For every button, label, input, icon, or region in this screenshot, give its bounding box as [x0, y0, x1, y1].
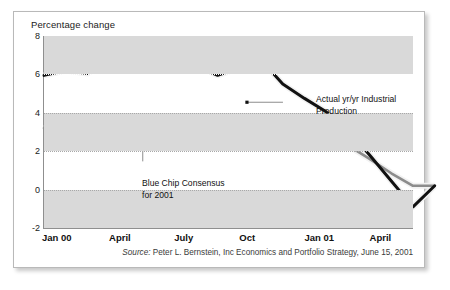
annotation-actual-production: Actual yr/yr Industrial Production	[316, 94, 396, 117]
annotation-blue-chip-consensus: Blue Chip Consensus for 2001	[142, 178, 225, 201]
x-tick-label-1: April	[109, 232, 131, 243]
y-tick-label-6: 6	[35, 69, 40, 79]
x-axis: Jan 00AprilJulyOctJan 01April	[44, 232, 413, 248]
y-axis: 86420-2	[14, 12, 44, 267]
gridline-6	[44, 74, 413, 75]
y-tick-label-8: 8	[35, 31, 40, 41]
annotation-actual-line1: Actual yr/yr Industrial	[316, 94, 396, 106]
gridline-0	[44, 190, 413, 191]
y-tick-label-0: 0	[35, 185, 40, 195]
y-tick-label-4: 4	[35, 108, 40, 118]
plot-band-0	[44, 36, 413, 74]
annotation-bluechip-line1: Blue Chip Consensus	[142, 178, 225, 190]
plot-area	[44, 36, 413, 228]
x-tick-label-3: Oct	[239, 232, 255, 243]
x-tick-label-2: July	[174, 232, 193, 243]
x-tick-label-5: April	[370, 232, 392, 243]
annotation-bluechip-line2: for 2001	[142, 190, 225, 202]
x-tick-label-0: Jan 00	[42, 232, 72, 243]
plot-band-2	[44, 190, 413, 228]
source-note: Source: Peter L. Bernstein, Inc Economic…	[14, 248, 413, 257]
y-tick-label--2: -2	[32, 223, 40, 233]
x-axis-line	[43, 228, 413, 229]
chart-figure: Percentage change 86420-2 Jan 00AprilJul…	[13, 11, 425, 268]
x-tick-label-4: Jan 01	[304, 232, 334, 243]
gridline-2	[44, 151, 413, 152]
annotation-actual-line2: Production	[316, 106, 396, 118]
source-text: Peter L. Bernstein, Inc Economics and Po…	[151, 248, 413, 257]
plot-band-1	[44, 113, 413, 151]
y-tick-label-2: 2	[35, 146, 40, 156]
annotation-marker-actual	[245, 101, 248, 104]
source-label: Source:	[122, 248, 150, 257]
